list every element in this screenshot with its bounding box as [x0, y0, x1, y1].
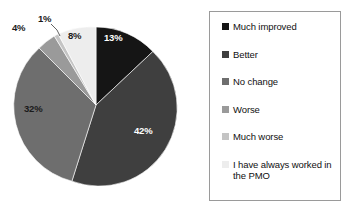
legend-label-better: Better: [233, 49, 258, 61]
legend-label-always-worked-in-pmo: I have always worked in the PMO: [233, 159, 334, 182]
legend-swatch-better: [222, 51, 229, 58]
legend-label-much-improved: Much improved: [233, 21, 297, 33]
slice-value-always-worked-in-pmo: 8%: [68, 31, 81, 41]
legend-item-much-improved[interactable]: Much improved: [222, 21, 334, 33]
chart-legend: Much improved Better No change Worse Muc…: [209, 11, 341, 201]
legend-swatch-much-improved: [222, 23, 229, 30]
legend-label-worse: Worse: [233, 104, 260, 116]
slice-value-worse: 4%: [12, 23, 25, 33]
slice-value-no-change: 32%: [24, 104, 42, 114]
legend-item-better[interactable]: Better: [222, 49, 334, 61]
legend-label-much-worse: Much worse: [233, 131, 283, 143]
legend-swatch-always-worked-in-pmo: [222, 161, 229, 168]
slice-value-much-worse: 1%: [38, 14, 51, 24]
slice-value-better: 42%: [134, 126, 152, 136]
legend-label-no-change: No change: [233, 76, 278, 88]
legend-item-no-change[interactable]: No change: [222, 76, 334, 88]
slice-value-much-improved: 13%: [104, 33, 122, 43]
pie-chart-area: 13% 42% 32% 4% 1% 8%: [0, 0, 205, 212]
legend-swatch-no-change: [222, 78, 229, 85]
legend-item-worse[interactable]: Worse: [222, 104, 334, 116]
legend-item-always-worked-in-pmo[interactable]: I have always worked in the PMO: [222, 159, 334, 182]
legend-swatch-much-worse: [222, 133, 229, 140]
legend-item-much-worse[interactable]: Much worse: [222, 131, 334, 143]
legend-swatch-worse: [222, 106, 229, 113]
legend-item-list: Much improved Better No change Worse Muc…: [222, 21, 334, 182]
